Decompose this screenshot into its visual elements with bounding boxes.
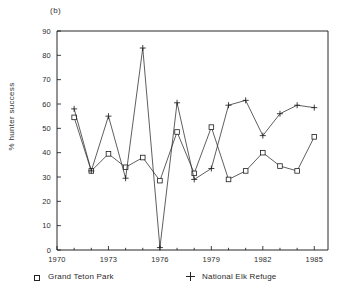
data-point-marker [106,152,111,157]
data-point-marker [158,178,163,183]
data-point-marker [71,106,77,112]
y-tick-label: 40 [42,148,51,157]
data-point-marker [226,177,231,182]
y-tick-label: 60 [42,100,51,109]
data-point-marker [175,130,180,135]
data-point-marker [311,105,317,111]
line-chart-plot: 0102030405060708090197019731976197919821… [0,0,349,272]
figure-panel-b: (b) % hunter success 0102030405060708090… [0,0,349,299]
data-point-marker [174,100,180,106]
square-marker-icon [32,272,41,281]
legend-item-national-elk-refuge: National Elk Refuge [186,272,277,281]
x-tick-label: 1976 [151,255,169,264]
legend-label-national-elk-refuge: National Elk Refuge [202,272,277,281]
data-point-marker [295,169,300,174]
data-point-marker [208,165,214,171]
y-tick-label: 10 [42,221,51,230]
legend-label-grand-teton-park: Grand Teton Park [48,272,114,281]
chart-legend: Grand Teton Park National Elk Refuge [0,272,349,288]
data-point-marker [105,113,111,119]
x-tick-label: 1973 [100,255,118,264]
data-point-marker [294,102,300,108]
series-line-1 [74,48,314,248]
x-tick-label: 1982 [254,255,272,264]
y-tick-label: 70 [42,75,51,84]
y-tick-label: 50 [42,124,51,133]
data-point-marker [243,169,248,174]
data-point-marker [226,102,232,108]
y-tick-label: 20 [42,197,51,206]
y-tick-label: 90 [42,27,51,36]
plus-marker-icon [186,272,195,281]
x-tick-label: 1985 [306,255,324,264]
x-tick-label: 1979 [203,255,221,264]
data-point-marker [123,175,129,181]
data-point-marker [140,45,146,51]
x-tick-label: 1970 [48,255,66,264]
legend-item-grand-teton-park: Grand Teton Park [32,272,114,281]
data-point-marker [261,150,266,155]
y-tick-label: 0 [47,246,51,255]
data-point-marker [312,135,317,140]
data-point-marker [191,176,197,182]
data-point-marker [140,155,145,160]
data-point-marker [278,164,283,169]
y-tick-label: 30 [42,173,51,182]
data-point-marker [243,97,249,103]
series-layer [71,45,317,251]
y-tick-label: 80 [42,51,51,60]
axis-layer: 0102030405060708090197019731976197919821… [42,27,328,264]
data-point-marker [209,125,214,130]
